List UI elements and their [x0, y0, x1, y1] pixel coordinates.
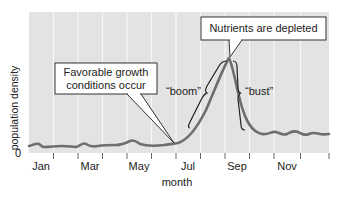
- callout-favorable-line2: conditions occur: [66, 79, 146, 91]
- y-zero-label: 0: [15, 147, 21, 159]
- month-label-may: May: [129, 160, 150, 172]
- month-label-jan: Jan: [32, 160, 50, 172]
- x-axis-ticks: [54, 153, 330, 159]
- month-label-nov: Nov: [277, 160, 297, 172]
- boom-label: “boom”: [166, 85, 201, 97]
- callout-favorable-line1: Favorable growth: [64, 66, 149, 78]
- month-label-mar: Mar: [81, 160, 100, 172]
- x-axis-label: month: [162, 176, 193, 188]
- month-label-jul: Jul: [181, 160, 195, 172]
- y-axis-label: population density: [8, 65, 20, 150]
- month-label-sep: Sep: [227, 160, 247, 172]
- chart: Favorable growth conditions occur Nutrie…: [0, 0, 343, 197]
- callout-nutrients-text: Nutrients are depleted: [209, 22, 317, 34]
- bust-label: “bust”: [245, 85, 273, 97]
